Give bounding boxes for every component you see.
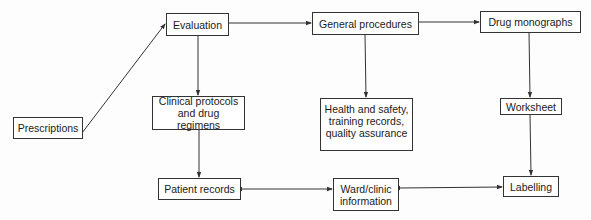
node-general-procedures: General procedures (312, 12, 419, 35)
edge-worksheet-labelling (530, 114, 531, 175)
edge-general-health (365, 34, 366, 97)
node-drug-monographs: Drug monographs (480, 11, 581, 33)
node-health-safety: Health and safety, training records, qua… (320, 98, 413, 151)
node-clinical-protocols: Clinical protocols and drug regimens (152, 96, 245, 130)
edge-ward-labelling (399, 187, 502, 188)
node-labelling: Labelling (503, 176, 559, 197)
node-evaluation: Evaluation (166, 13, 229, 36)
node-worksheet: Worksheet (500, 98, 562, 115)
flowchart-canvas: Prescriptions Evaluation General procedu… (0, 0, 591, 220)
node-prescriptions: Prescriptions (13, 117, 83, 139)
node-ward-clinic: Ward/clinic information (333, 178, 399, 211)
edge-drug-worksheet (529, 32, 530, 97)
node-patient-records: Patient records (158, 178, 241, 200)
